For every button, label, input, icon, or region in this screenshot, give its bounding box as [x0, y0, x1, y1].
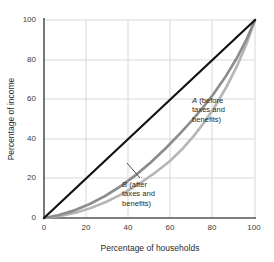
y-tick-label: 60 — [14, 95, 36, 103]
x-tick-label: 80 — [208, 224, 217, 232]
y-tick-label: 100 — [14, 16, 36, 24]
curve-b-text-2: taxes and — [122, 189, 155, 198]
curve-a-text-1: (before — [199, 96, 223, 105]
vertical-gridlines — [86, 20, 255, 218]
curve-b-text-1: (after — [129, 180, 147, 189]
x-axis-title: Percentage of households — [101, 244, 200, 253]
curve-a-text-2: taxes and — [192, 105, 225, 114]
y-tick-label: 0 — [14, 214, 36, 222]
curve-a-label: A (before taxes and benefits) — [192, 96, 225, 124]
lorenz-curve-chart: 100 80 60 40 20 0 0 20 40 60 80 100 Perc… — [0, 0, 274, 262]
x-tick-label: 60 — [166, 224, 175, 232]
y-axis-title: Percentage of income — [7, 78, 16, 161]
x-tick-label: 100 — [247, 224, 260, 232]
curve-b-letter: B — [122, 180, 127, 189]
x-tick-label: 0 — [42, 224, 46, 232]
curve-a-letter: A — [192, 96, 197, 105]
curve-a-label-line1: A (before — [192, 96, 225, 105]
curve-b-text-3: benefits) — [122, 199, 155, 208]
y-tick-label: 20 — [14, 174, 36, 182]
y-tick-label: 80 — [14, 56, 36, 64]
curve-b-label-line1: B (after — [122, 180, 155, 189]
x-tick-label: 20 — [82, 224, 91, 232]
y-tick-label: 40 — [14, 135, 36, 143]
x-tick-label: 40 — [124, 224, 133, 232]
curve-b-label: B (after taxes and benefits) — [122, 180, 155, 208]
curve-a-text-3: benefits) — [192, 115, 225, 124]
